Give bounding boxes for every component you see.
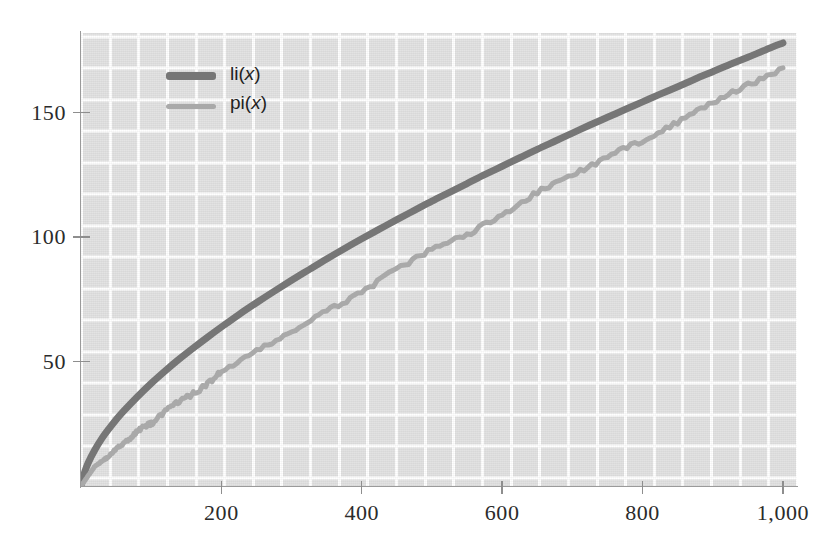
- y-tick-label-50: 50: [43, 349, 66, 375]
- legend-label-li-arg: x: [245, 63, 255, 84]
- x-tick-400: [361, 481, 362, 494]
- x-tick-label-200: 200: [204, 500, 239, 526]
- legend-label-pi-close: ): [261, 92, 267, 113]
- chart-figure: 50100150 2004006008001,000 li(x) pi(x): [0, 0, 838, 540]
- x-tick-600: [501, 481, 502, 494]
- x-tick-1000: [782, 481, 783, 494]
- x-tick-label-800: 800: [625, 500, 660, 526]
- series-line-pi: [81, 68, 783, 486]
- x-tick-label-400: 400: [344, 500, 379, 526]
- series-line-li: [81, 43, 783, 486]
- x-tick-label-600: 600: [485, 500, 520, 526]
- x-tick-200: [221, 481, 222, 494]
- x-tick-label-1000: 1,000: [757, 500, 810, 526]
- y-tick-label-150: 150: [31, 100, 66, 126]
- series-curves: [81, 33, 797, 486]
- legend-label-li: li(x): [230, 63, 261, 85]
- y-tick-150: [73, 112, 90, 113]
- plot-area: [81, 33, 797, 486]
- y-tick-label-100: 100: [31, 224, 66, 250]
- legend-label-pi-base: pi: [230, 92, 245, 113]
- legend-label-pi-arg: x: [251, 92, 261, 113]
- y-tick-50: [73, 361, 90, 362]
- legend-label-pi: pi(x): [230, 92, 267, 114]
- y-axis-line: [80, 31, 81, 488]
- legend-label-li-close: ): [254, 63, 260, 84]
- x-tick-800: [642, 481, 643, 494]
- x-axis-line: [80, 486, 798, 487]
- y-tick-100: [73, 236, 90, 237]
- legend-swatch-pi: [166, 104, 216, 109]
- legend-swatch-li: [166, 72, 216, 80]
